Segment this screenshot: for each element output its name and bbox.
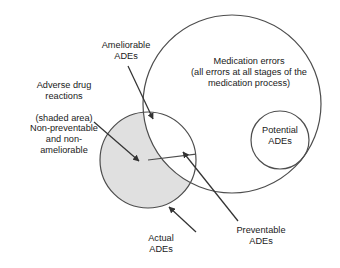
venn-diagram-figure: Ameliorable ADEs Adverse drug reactions … (0, 0, 340, 268)
arrow-actual (169, 207, 196, 232)
label-adverse-drug-reactions: Adverse drug reactions (shaded area) Non… (2, 80, 126, 156)
arrow-preventable (183, 152, 238, 221)
label-ameliorable-ades: Ameliorable ADEs (72, 40, 180, 62)
label-potential-ades: Potential ADEs (248, 125, 312, 147)
label-medication-errors: Medication errors (all errors at all sta… (168, 56, 330, 89)
label-preventable-ades: Preventable ADEs (216, 225, 306, 247)
label-actual-ades: Actual ADEs (130, 233, 192, 255)
arrow-ameliorable (128, 66, 153, 119)
